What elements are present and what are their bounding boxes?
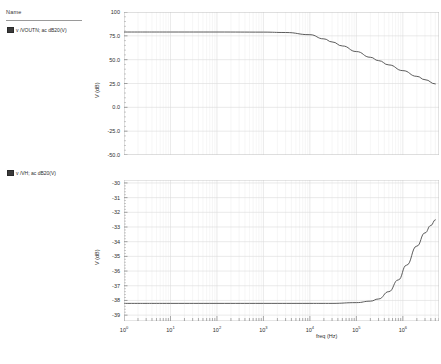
y-axis-ticks: -30-31-32-33-34-35-36-37-38-39	[86, 166, 120, 364]
x-axis-label: freq (Hz)	[316, 333, 337, 339]
y-tick-label: -35	[112, 253, 120, 259]
y-tick-label: -31	[112, 195, 120, 201]
plot-area-vh[interactable]	[124, 180, 439, 321]
plot-area-voutn[interactable]	[124, 12, 439, 155]
y-tick-label: -50.0	[107, 152, 120, 158]
x-tick-label: 102	[213, 325, 221, 333]
y-tick-label: -30	[112, 180, 120, 186]
color-swatch-icon	[7, 170, 14, 176]
color-swatch-icon	[7, 27, 14, 33]
chart-vh[interactable]: -30-31-32-33-34-35-36-37-38-39 V (dB) 10…	[86, 166, 441, 364]
legend-item-vh[interactable]: v /VH; ac dB20(V)	[7, 170, 56, 176]
legend-header: Name	[6, 9, 80, 15]
legend-item-voutn[interactable]: v /VOUTN; ac dB20(V)	[7, 27, 67, 33]
plot-stack: 10075.050.025.00.0-25.0-50.0 V (dB) -30-…	[86, 0, 441, 364]
y-axis-label: V (dB)	[94, 82, 100, 98]
legend-divider	[6, 20, 82, 21]
signal-legend-panel: Name v /VOUTN; ac dB20(V) v /VH; ac dB20…	[0, 0, 86, 364]
y-tick-label: 25.0	[109, 81, 120, 87]
chart-voutn[interactable]: 10075.050.025.00.0-25.0-50.0 V (dB)	[86, 0, 441, 166]
x-tick-label: 101	[166, 325, 174, 333]
y-axis-ticks: 10075.050.025.00.0-25.0-50.0	[86, 0, 120, 166]
x-tick-label: 106	[399, 325, 407, 333]
waveform-viewer: Name v /VOUTN; ac dB20(V) v /VH; ac dB20…	[0, 0, 441, 364]
legend-item-label: v /VOUTN; ac dB20(V)	[16, 27, 67, 33]
x-tick-label: 103	[259, 325, 267, 333]
y-tick-label: 100	[111, 9, 120, 15]
x-tick-label: 105	[352, 325, 360, 333]
y-tick-label: -34	[112, 239, 120, 245]
y-tick-label: -38	[112, 297, 120, 303]
y-tick-label: 50.0	[109, 57, 120, 63]
y-tick-label: -32	[112, 209, 120, 215]
y-tick-label: 0.0	[112, 104, 120, 110]
x-tick-label: 104	[306, 325, 314, 333]
y-tick-label: -37	[112, 283, 120, 289]
legend-item-label: v /VH; ac dB20(V)	[16, 170, 56, 176]
y-tick-label: -33	[112, 224, 120, 230]
y-axis-label: V (dB)	[94, 249, 100, 265]
y-tick-label: 75.0	[109, 33, 120, 39]
y-tick-label: -39	[112, 312, 120, 318]
y-tick-label: -36	[112, 268, 120, 274]
x-tick-label: 100	[120, 325, 128, 333]
y-tick-label: -25.0	[107, 128, 120, 134]
